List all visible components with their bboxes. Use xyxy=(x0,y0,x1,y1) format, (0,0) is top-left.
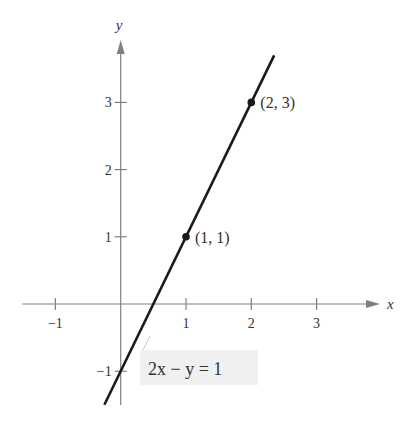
y-axis-arrow-icon xyxy=(117,40,125,54)
x-tick-label: −1 xyxy=(48,316,63,331)
equation-label-text: 2x − y = 1 xyxy=(148,359,222,379)
axes: xy xyxy=(22,17,394,405)
y-tick-label: −1 xyxy=(97,364,112,379)
data-point-marker xyxy=(248,99,256,107)
y-axis-label: y xyxy=(114,17,123,33)
data-point-label: (1, 1) xyxy=(195,229,230,247)
x-axis-label: x xyxy=(386,296,394,312)
equation-label: 2x − y = 1 xyxy=(140,336,258,385)
line-graph: xy −1123−1123 2x − y = 1 (1, 1)(2, 3) xyxy=(0,0,416,432)
equation-leader-line xyxy=(143,336,150,350)
x-axis-arrow-icon xyxy=(366,300,380,308)
y-tick-label: 3 xyxy=(105,95,112,110)
y-tick-label: 2 xyxy=(105,163,112,178)
x-tick-label: 1 xyxy=(183,316,190,331)
x-tick-label: 2 xyxy=(248,316,255,331)
data-point-marker xyxy=(182,233,190,241)
data-point-label: (2, 3) xyxy=(260,94,295,112)
y-tick-label: 1 xyxy=(105,230,112,245)
data-points: (1, 1)(2, 3) xyxy=(182,94,295,246)
x-tick-label: 3 xyxy=(313,316,320,331)
